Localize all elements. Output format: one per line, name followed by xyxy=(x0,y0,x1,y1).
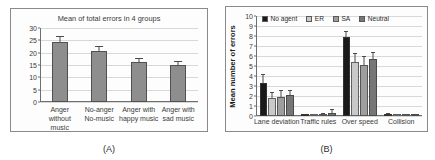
bar-slot xyxy=(402,16,410,116)
y-axis-tick-label: 6 xyxy=(249,53,253,60)
bar[interactable] xyxy=(393,114,401,116)
bar-slot xyxy=(131,28,147,102)
bar-group xyxy=(119,28,159,102)
panel-b-legend: No agentERSANeutral xyxy=(262,15,389,22)
y-axis-tick-label: 2 xyxy=(249,93,253,100)
bar-slot xyxy=(286,16,294,116)
bar-slot xyxy=(343,16,351,116)
bar[interactable] xyxy=(343,37,351,116)
bar-group xyxy=(298,16,340,116)
bar-slot xyxy=(301,16,309,116)
error-bar-cap-upper xyxy=(270,92,274,93)
y-axis-tick-label: 20 xyxy=(29,49,37,56)
legend-item[interactable]: ER xyxy=(306,15,324,22)
bar-slot xyxy=(170,28,186,102)
y-axis-tick-label: 8 xyxy=(249,33,253,40)
x-axis-category-label: Anger withsad music xyxy=(150,106,207,124)
error-bar-cap-upper xyxy=(135,58,143,59)
error-bar-cap-upper xyxy=(371,52,375,53)
x-axis-category-label: Collision xyxy=(371,118,431,127)
x-axis-category-label-line: Anger with xyxy=(150,106,207,115)
bar[interactable] xyxy=(351,62,359,116)
bar-group xyxy=(381,16,423,116)
panel-b-y-axis-title: Mean number of errors xyxy=(226,16,238,116)
bar-group xyxy=(256,16,298,116)
y-axis-tick-label: 10 xyxy=(245,13,253,20)
bar[interactable] xyxy=(91,51,107,102)
y-axis-tick-label: 0 xyxy=(33,99,37,106)
y-axis-tick-label: 5 xyxy=(33,86,37,93)
x-axis-category-label-line: Collision xyxy=(371,118,431,127)
bar[interactable] xyxy=(310,114,318,116)
bar-slot xyxy=(393,16,401,116)
figure-container: Mean of total errors in 4 groups 0510152… xyxy=(0,0,435,160)
bars-layer xyxy=(256,16,422,116)
bar-slot xyxy=(260,16,268,116)
legend-item[interactable]: SA xyxy=(333,15,350,22)
legend-swatch-icon xyxy=(333,16,339,22)
bar[interactable] xyxy=(384,114,392,116)
bar[interactable] xyxy=(286,95,294,116)
bar-slot xyxy=(310,16,318,116)
legend-swatch-icon xyxy=(306,16,312,22)
panel-a-label: (A) xyxy=(0,144,218,154)
bar[interactable] xyxy=(319,114,327,116)
y-axis-tick-label: 30 xyxy=(29,25,37,32)
bar[interactable] xyxy=(260,83,268,116)
gridline xyxy=(40,102,198,103)
bar-group xyxy=(80,28,120,102)
bar-group xyxy=(159,28,199,102)
legend-item-label: No agent xyxy=(271,15,298,22)
y-axis-tick-label: 10 xyxy=(29,74,37,81)
gridline xyxy=(256,116,422,117)
panel-a-plot-area: 051015202530AngerwithoutmusicNo-angerNo-… xyxy=(40,28,198,102)
panel-b-y-axis-title-text: Mean number of errors xyxy=(228,25,237,108)
error-bar-cap-upper xyxy=(362,56,366,57)
legend-swatch-icon xyxy=(262,16,268,22)
y-axis-tick-label: 9 xyxy=(249,23,253,30)
panel-a: Mean of total errors in 4 groups 0510152… xyxy=(0,0,218,160)
bar-slot xyxy=(384,16,392,116)
bar[interactable] xyxy=(411,114,419,116)
error-bar-cap-upper xyxy=(95,46,103,47)
legend-item[interactable]: No agent xyxy=(262,15,297,22)
bars-layer xyxy=(40,28,198,102)
bar[interactable] xyxy=(170,65,186,102)
bar[interactable] xyxy=(402,114,410,116)
legend-swatch-icon xyxy=(359,16,365,22)
y-axis-tick-label: 7 xyxy=(249,43,253,50)
y-axis-tick-label: 15 xyxy=(29,62,37,69)
y-axis-tick-label: 3 xyxy=(249,83,253,90)
bar-slot xyxy=(268,16,276,116)
error-bar-cap-upper xyxy=(279,90,283,91)
legend-item-label: Neutral xyxy=(368,15,389,22)
bar-slot xyxy=(277,16,285,116)
bar-group xyxy=(40,28,80,102)
bar[interactable] xyxy=(268,98,276,116)
error-bar-cap-upper xyxy=(174,61,182,62)
x-axis-category-label-line: music xyxy=(31,124,88,133)
bar-slot xyxy=(369,16,377,116)
error-bar-cap-upper xyxy=(353,53,357,54)
bar[interactable] xyxy=(131,62,147,102)
bar[interactable] xyxy=(301,114,309,116)
legend-item[interactable]: Neutral xyxy=(359,15,389,22)
error-bar-cap-upper xyxy=(288,90,292,91)
error-bar-cap-upper xyxy=(261,74,265,75)
bar[interactable] xyxy=(277,97,285,116)
bar[interactable] xyxy=(360,65,368,116)
y-axis-tick-label: 1 xyxy=(249,103,253,110)
y-axis-tick-label: 25 xyxy=(29,37,37,44)
panel-b: Mean number of errors No agentERSANeutra… xyxy=(218,0,435,160)
bar-slot xyxy=(360,16,368,116)
legend-item-label: ER xyxy=(315,15,324,22)
y-axis-tick-label: 5 xyxy=(249,63,253,70)
panel-b-plot-area: 012345678910Lane deviationTraffic rulesO… xyxy=(256,16,422,116)
error-bar-cap-upper xyxy=(56,36,64,37)
bar-slot xyxy=(319,16,327,116)
bar[interactable] xyxy=(369,59,377,116)
bar-slot xyxy=(52,28,68,102)
bar[interactable] xyxy=(328,113,336,117)
panel-a-chart-title: Mean of total errors in 4 groups xyxy=(0,14,218,23)
bar[interactable] xyxy=(52,42,68,102)
